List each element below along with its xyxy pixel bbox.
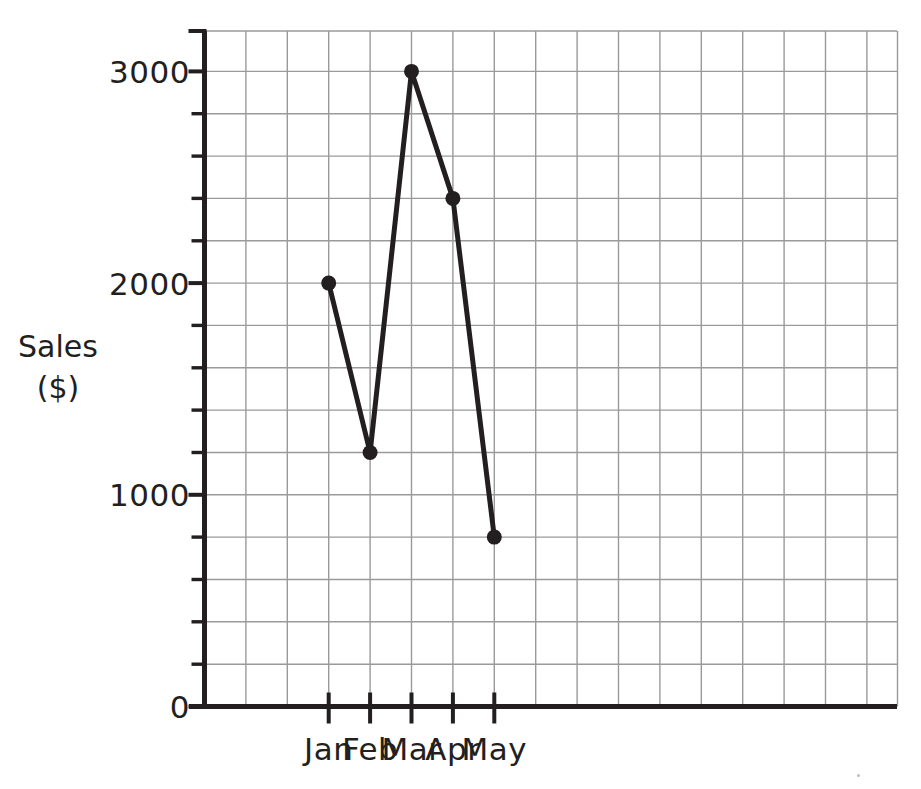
x-tick-label-may: May (462, 731, 528, 767)
data-point-feb (363, 445, 378, 460)
data-point-mar (404, 64, 419, 79)
line-chart: 3000 2000 1000 0 JanFebMarAprMay Sales (… (0, 0, 921, 789)
data-point-jan (321, 276, 336, 291)
y-tick-label-0: 0 (170, 689, 190, 725)
y-tick-label-2000: 2000 (109, 266, 190, 302)
y-tick-label-3000: 3000 (109, 54, 190, 90)
grid-vertical-lines (246, 31, 898, 707)
data-point-may (487, 530, 502, 545)
y-tick-label-1000: 1000 (109, 477, 190, 513)
grid-horizontal-lines (205, 31, 898, 664)
chart-canvas: 3000 2000 1000 0 JanFebMarAprMay Sales (… (0, 0, 921, 789)
y-axis-title-line1: Sales (18, 329, 98, 364)
x-axis-tick-labels: JanFebMarAprMay (302, 731, 527, 767)
y-axis-title-line2: ($) (37, 370, 80, 405)
scan-artifact-speck (857, 774, 860, 777)
data-point-apr (445, 191, 460, 206)
